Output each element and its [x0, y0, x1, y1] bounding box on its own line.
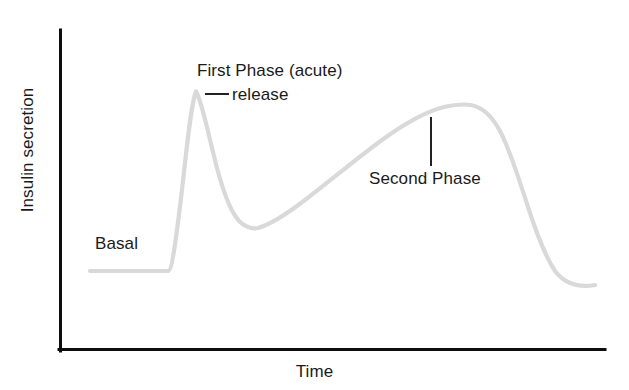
insulin-secretion-curve	[90, 92, 595, 286]
chart-canvas	[0, 0, 629, 390]
annotation-second-phase: Second Phase	[369, 170, 481, 188]
insulin-secretion-chart: First Phase (acute) release Second Phase…	[0, 0, 629, 390]
annotation-first-phase: First Phase (acute)	[197, 62, 343, 80]
y-axis-label: Insulin secretion	[19, 0, 41, 310]
annotation-release: release	[232, 86, 288, 104]
x-axis-label: Time	[0, 363, 629, 381]
annotation-basal: Basal	[95, 235, 138, 253]
